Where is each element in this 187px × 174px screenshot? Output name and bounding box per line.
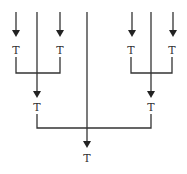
right-top-arrow-1: [128, 12, 136, 37]
lower-bracket: [37, 114, 151, 128]
left-mid-node: T: [33, 101, 41, 114]
right-top-node-2: T: [168, 44, 176, 57]
right-top-arrow-2: [169, 12, 177, 37]
left-long-arrow: [33, 12, 41, 98]
right-top-node-1: T: [127, 44, 135, 57]
left-top-node-1: T: [12, 44, 20, 57]
right-long-arrow: [147, 12, 155, 98]
bottom-node: T: [83, 152, 91, 165]
left-top-node-2: T: [56, 44, 64, 57]
left-top-arrow-2: [56, 12, 64, 37]
left-top-arrow-1: [12, 12, 20, 37]
right-mid-node: T: [147, 101, 155, 114]
left-top-bracket: [16, 57, 60, 73]
tree-diagram: T T T T T T T: [0, 0, 187, 174]
